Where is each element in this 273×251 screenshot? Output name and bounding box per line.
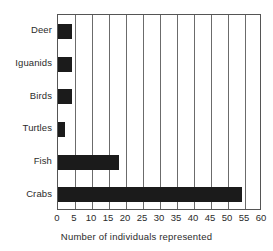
category-label: Turtles	[0, 123, 52, 133]
category-axis: DeerIguanidsBirdsTurtlesFishCrabs	[0, 14, 52, 210]
category-label: Birds	[0, 91, 52, 101]
plot-area	[57, 14, 261, 210]
category-label: Crabs	[0, 189, 52, 199]
bar	[58, 155, 119, 170]
x-axis-title: Number of individuals represented	[0, 231, 273, 242]
category-label: Iguanids	[0, 58, 52, 68]
x-axis-tick-labels: 051015202530354045505560	[57, 212, 261, 226]
bar-chart-figure: DeerIguanidsBirdsTurtlesFishCrabs 051015…	[0, 0, 273, 251]
bar	[58, 57, 72, 72]
x-tick-label: 60	[249, 212, 273, 224]
category-label: Fish	[0, 156, 52, 166]
bars-layer	[58, 15, 260, 209]
bar	[58, 187, 242, 202]
bar	[58, 122, 65, 137]
bar	[58, 24, 72, 39]
bar	[58, 89, 72, 104]
category-label: Deer	[0, 25, 52, 35]
